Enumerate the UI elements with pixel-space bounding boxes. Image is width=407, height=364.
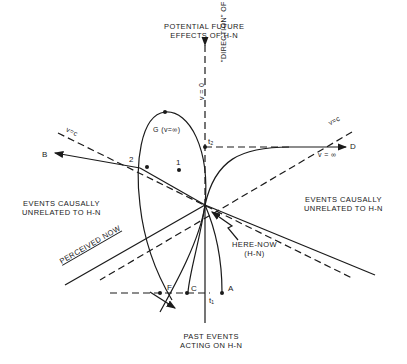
- here-now-label: HERE-NOW (H-N): [232, 240, 277, 258]
- v-inf-label: v = ∞: [318, 150, 336, 159]
- point-A: A: [228, 284, 233, 293]
- future-label: POTENTIAL FUTURE EFFECTS OF H-N: [164, 22, 244, 40]
- v-zero-label: v = 0: [197, 83, 206, 100]
- point-F: F: [167, 283, 172, 292]
- left-region-label: EVENTS CAUSALLY UNRELATED TO H-N: [22, 199, 101, 217]
- line-to-B: [55, 153, 140, 168]
- lower-right-line: [205, 205, 375, 275]
- right-region-label: EVENTS CAUSALLY UNRELATED TO H-N: [304, 195, 383, 213]
- spacetime-diagram: POTENTIAL FUTURE EFFECTS OF H-N PAST EVE…: [0, 0, 407, 364]
- point-2: 2: [129, 155, 133, 164]
- point-B: B: [42, 150, 47, 159]
- t2-label: t₂: [208, 137, 213, 146]
- curve-to-F: [160, 205, 205, 312]
- time-direction-label: "DIRECTION" OF TIME: [219, 0, 228, 62]
- point-C: C: [191, 284, 197, 293]
- curve-G: [138, 112, 206, 300]
- past-label: PAST EVENTS ACTING ON H-N: [180, 332, 242, 350]
- curve-to-C: [188, 205, 205, 292]
- g-label: G (v=∞): [153, 125, 180, 134]
- point-D: D: [350, 142, 356, 151]
- t1-label: t₁: [209, 296, 214, 305]
- point-1: 1: [176, 158, 180, 167]
- diagram-lines: [0, 0, 407, 364]
- curve-to-A: [205, 205, 222, 292]
